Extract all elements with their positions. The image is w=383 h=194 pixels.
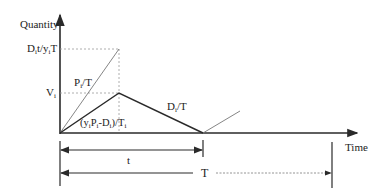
net-buildup-label: (yiPi-Di)/Ti bbox=[80, 117, 126, 130]
inventory-cycle-diagram: Quantity Time Dit/yiT Vi Pi/T (yiPi-Di)/… bbox=[0, 0, 383, 194]
production-rate-label: Pi/T bbox=[74, 76, 92, 90]
production-line bbox=[60, 49, 119, 133]
demand-rate-label: Di/T bbox=[167, 100, 187, 114]
t-interval-label: t bbox=[127, 154, 130, 166]
T-interval-label: T bbox=[201, 166, 209, 180]
next-cycle-line bbox=[203, 111, 240, 133]
peak-quantity-label: Vi bbox=[46, 86, 56, 100]
x-axis-label: Time bbox=[345, 141, 368, 153]
top-quantity-label: Dit/yiT bbox=[27, 42, 57, 56]
y-axis-label: Quantity bbox=[20, 18, 59, 30]
